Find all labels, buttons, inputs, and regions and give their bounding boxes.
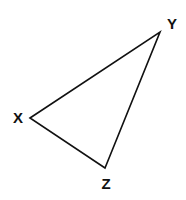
vertex-label-x: X [13, 109, 23, 126]
triangle-diagram: X Y Z [0, 0, 186, 200]
vertex-label-z: Z [101, 175, 110, 192]
triangle-xyz [30, 32, 160, 168]
vertex-label-y: Y [167, 15, 177, 32]
